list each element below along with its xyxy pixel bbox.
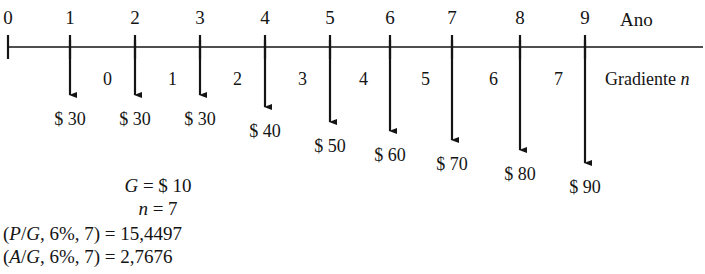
note-pg-rest: , 6%, 7) = 15,4497 — [40, 223, 182, 244]
year-label-4: 4 — [250, 8, 280, 27]
timeline-axis — [8, 35, 703, 59]
note-ag-rest: , 6%, 7) = 2,7676 — [40, 246, 173, 267]
note-periods-value: n = 7 — [8, 197, 308, 220]
gradient-number-1: 1 — [151, 70, 177, 88]
note-factor-ag: (A/G, 6%, 7) = 2,7676 — [3, 245, 173, 268]
cash-flow-amount-year-3: $ 30 — [168, 110, 232, 128]
cash-flow-amount-year-1: $ 30 — [38, 110, 102, 128]
cash-flow-amount-year-8: $ 80 — [488, 165, 552, 183]
axis-caption-ano: Ano — [620, 10, 653, 29]
year-label-0: 0 — [0, 8, 23, 27]
note-n-value: = 7 — [153, 198, 178, 219]
gradient-number-3: 3 — [281, 70, 307, 88]
note-ag-g: G — [26, 246, 40, 267]
note-n-variable: n — [138, 198, 148, 219]
note-g-value: = $ 10 — [143, 175, 192, 196]
gradient-number-6: 6 — [472, 70, 498, 88]
cash-flow-diagram: 0 1 2 3 4 5 6 7 8 9 Ano 0 1 2 3 4 5 6 7 … — [0, 0, 705, 274]
year-label-2: 2 — [120, 8, 150, 27]
cash-flow-amount-year-9: $ 90 — [553, 178, 617, 196]
gradient-caption-text: Gradiente — [605, 69, 676, 89]
gradient-number-4: 4 — [342, 70, 368, 88]
note-gradient-value: G = $ 10 — [8, 174, 308, 197]
year-label-8: 8 — [505, 8, 535, 27]
gradient-number-5: 5 — [404, 70, 430, 88]
note-pg-g: G — [26, 223, 40, 244]
note-g-variable: G — [124, 175, 138, 196]
cash-flow-amount-year-2: $ 30 — [103, 110, 167, 128]
cash-flow-amount-year-7: $ 70 — [420, 155, 484, 173]
note-ag-a: A — [9, 246, 21, 267]
gradient-number-2: 2 — [216, 70, 242, 88]
year-label-6: 6 — [375, 8, 405, 27]
gradient-number-7: 7 — [537, 70, 563, 88]
gradient-number-0: 0 — [86, 70, 112, 88]
year-label-1: 1 — [55, 8, 85, 27]
year-label-5: 5 — [315, 8, 345, 27]
year-label-7: 7 — [437, 8, 467, 27]
note-factor-pg: (P/G, 6%, 7) = 15,4497 — [3, 222, 182, 245]
year-label-9: 9 — [570, 8, 600, 27]
cash-flow-amount-year-6: $ 60 — [358, 146, 422, 164]
gradient-caption-variable: n — [680, 69, 689, 89]
year-label-3: 3 — [185, 8, 215, 27]
gradient-caption: Gradiente n — [605, 70, 689, 88]
note-pg-p: P — [9, 223, 21, 244]
cash-flow-amount-year-5: $ 50 — [298, 137, 362, 155]
cash-flow-amount-year-4: $ 40 — [233, 122, 297, 140]
